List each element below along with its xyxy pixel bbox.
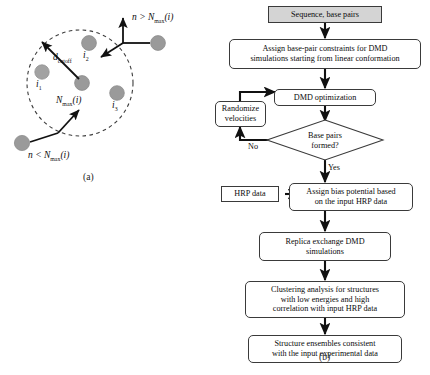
node-label: Sequence, base pairs <box>291 10 359 20</box>
outside-below-arm <box>30 133 58 142</box>
node-label: Replica exchange DMD simulations <box>285 237 364 256</box>
label-i1: i1 <box>36 80 42 92</box>
label-nmax-center: Nmax(i) <box>56 96 81 108</box>
label-n-greater-nmax: n > Nmax(i) <box>132 13 173 25</box>
node-assign-constraints[interactable]: Assign base-pair constraints for DMD sim… <box>229 39 421 69</box>
particle-i2 <box>82 36 97 51</box>
node-assign-bias-potential[interactable]: Assign bias potential based on the input… <box>289 183 413 211</box>
node-replica-exchange[interactable]: Replica exchange DMD simulations <box>259 232 391 261</box>
node-label: Base pairs formed? <box>308 131 342 150</box>
node-dmd-optimization[interactable]: DMD optimization <box>274 89 376 106</box>
panel-a: i1 i2 i3 dcutoff Nmax(i) n > Nmax(i) n <… <box>0 0 215 375</box>
particle-outside-above <box>151 36 166 51</box>
node-sequence-base-pairs[interactable]: Sequence, base pairs <box>268 6 382 23</box>
edge-no-to-randomize <box>240 127 273 140</box>
label-d-cutoff: dcutoff <box>53 53 72 65</box>
node-base-pairs-formed[interactable]: Base pairs formed? <box>293 131 357 150</box>
node-randomize-velocities[interactable]: Randomize velocities <box>215 101 266 127</box>
particle-outside-below <box>14 135 29 150</box>
panel-a-caption: (a) <box>83 172 94 182</box>
particle-i3 <box>110 86 125 101</box>
node-clustering-analysis[interactable]: Clustering analysis for structures with … <box>245 281 405 318</box>
label-n-less-nmax: n < Nmax(i) <box>28 151 69 163</box>
node-label: Clustering analysis for structures with … <box>271 285 379 314</box>
edge-label-yes: Yes <box>328 163 340 172</box>
node-label: Assign base-pair constraints for DMD sim… <box>250 44 399 63</box>
node-label: Assign bias potential based on the input… <box>306 187 395 206</box>
label-i3: i3 <box>112 101 118 113</box>
edge-randomize-to-dmd <box>240 92 275 101</box>
panel-a-graphics <box>0 0 215 375</box>
particle-i1 <box>35 65 49 79</box>
panel-b-caption: (b) <box>319 352 330 362</box>
node-label: HRP data <box>234 189 265 199</box>
node-hrp-data[interactable]: HRP data <box>221 186 279 202</box>
node-label: Randomize velocities <box>222 104 259 123</box>
outside-above-in-arrow <box>101 43 123 57</box>
node-label: DMD optimization <box>294 93 357 103</box>
edge-label-no: No <box>248 142 258 151</box>
label-i2: i2 <box>83 51 89 63</box>
figure-root: i1 i2 i3 dcutoff Nmax(i) n > Nmax(i) n <… <box>0 0 430 375</box>
outside-below-in-arrow <box>58 110 79 133</box>
panel-b: Sequence, base pairs Assign base-pair co… <box>215 0 430 375</box>
